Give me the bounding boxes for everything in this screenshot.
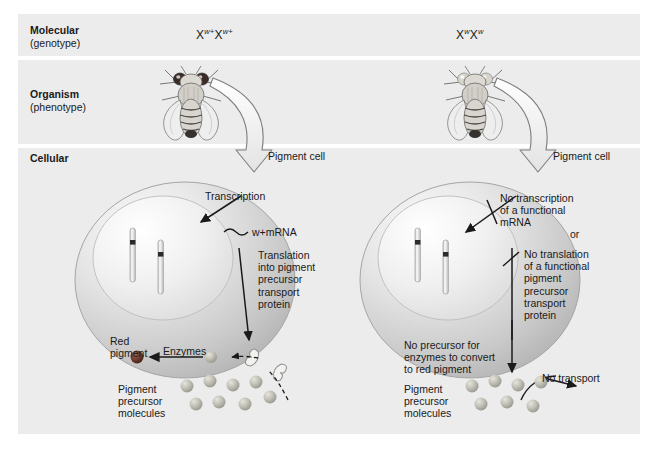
no-transport-label: No transport: [542, 372, 600, 384]
pigment-cell-label-left: Pigment cell: [268, 150, 325, 162]
no-translation-label: No translation of a functional pigment p…: [524, 248, 589, 321]
fly-right: [444, 66, 506, 140]
chromosome-left-2: [158, 240, 163, 294]
arrow-left-fly-to-cell: [210, 78, 272, 172]
precursor-pool-left: [181, 375, 277, 411]
arrow-right-fly-to-cell: [494, 78, 556, 172]
no-transcription-label: No transcription of a functional mRNA: [500, 192, 574, 229]
enzymes-label: Enzymes: [163, 345, 206, 357]
figure-root: Molecular (genotype) Organism (phenotype…: [0, 0, 658, 455]
fly-left: [160, 66, 222, 140]
transport-protein-left: [244, 348, 288, 382]
translation-label: Translation into pigment precursor trans…: [258, 249, 315, 310]
or-label: or: [570, 228, 579, 240]
no-precursor-label: No precursor for enzymes to convert to r…: [404, 339, 495, 376]
red-pigment-label: Red pigment: [110, 335, 147, 359]
precursor-inside-left: [205, 351, 217, 363]
mrna-allele-left: w+: [252, 226, 266, 238]
mrna-label-left: w+mRNA: [252, 226, 297, 238]
pigment-cell-label-right: Pigment cell: [553, 150, 610, 162]
chromosome-right-2: [443, 240, 448, 294]
precursor-label-left: Pigment precursor molecules: [118, 383, 165, 420]
chromosome-right-1: [415, 228, 420, 282]
chromosome-left-1: [130, 228, 135, 282]
transcription-label: Transcription: [205, 190, 265, 202]
mrna-word-left: mRNA: [266, 226, 297, 238]
precursor-pool-right: [466, 375, 548, 413]
precursor-label-right: Pigment precursor molecules: [404, 383, 451, 420]
